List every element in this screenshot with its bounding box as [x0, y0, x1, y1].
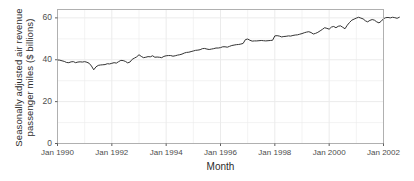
- chart-container: Seasonally adjusted air revenue passenge…: [0, 0, 414, 181]
- plot-area: [0, 0, 414, 181]
